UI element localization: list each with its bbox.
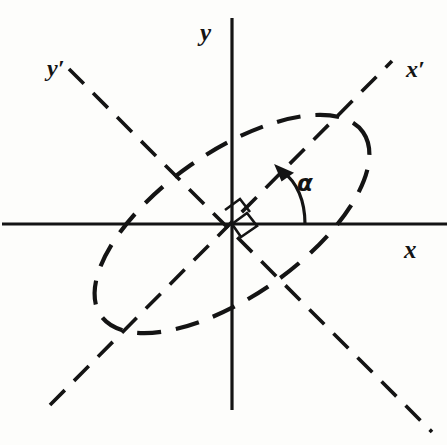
y-axis-label: y <box>200 20 211 45</box>
y-prime-axis-label: y′ <box>47 56 64 80</box>
coordinate-rotation-diagram <box>0 0 447 445</box>
x-axis-label: x <box>404 237 417 262</box>
x-prime-axis-label: x′ <box>406 57 425 81</box>
y-prime-axis-line <box>69 69 432 432</box>
figure-container: y x x′ y′ α <box>0 0 447 445</box>
x-prime-axis-line <box>50 61 392 405</box>
angle-alpha-label: α <box>297 172 313 195</box>
right-angle-marker-icon <box>225 199 257 237</box>
